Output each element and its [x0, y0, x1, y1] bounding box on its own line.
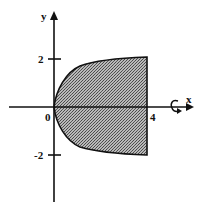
diagram-canvas: y x 0 2 -2 4: [0, 0, 198, 206]
y-axis-arrow-icon: [50, 11, 58, 20]
x-tick-label-4: 4: [150, 111, 156, 123]
y-axis-label: y: [41, 10, 47, 22]
origin-label: 0: [45, 111, 51, 123]
y-tick-label-2: 2: [38, 53, 44, 65]
shaded-region: [54, 57, 147, 155]
rotation-arrowhead-icon: [177, 108, 182, 114]
x-axis-label: x: [186, 93, 192, 105]
y-tick-label-neg2: -2: [34, 149, 44, 161]
